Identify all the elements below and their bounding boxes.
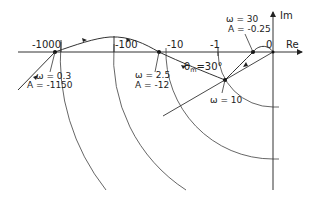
amplitude-minus-12-label: A = -12 [135,80,169,90]
real-axis-ticks [61,36,218,56]
tick-label-minus-1000: -1000 [32,39,61,50]
arrow-icon [243,62,248,67]
tick-label-minus-1: -1 [210,39,220,50]
real-axis-label: Re [286,39,299,50]
tick-label-minus-10: -10 [167,39,183,50]
imag-axis-label: Im [280,10,293,21]
omega-10-label: ω = 10 [210,95,243,105]
svg-text:θm=30°: θm=30° [184,61,223,74]
phase-margin-value: =30° [196,61,222,72]
point-origin [272,51,275,54]
phase-margin-label: θm=30° [184,61,223,74]
amplitude-minus-1150-label: A = -1150 [27,80,73,90]
arc-minus-1000 [60,42,106,190]
omega-2.5-label: ω = 2.5 [135,70,170,80]
amplitude-minus-0.25-label: A = -0.25 [228,24,271,34]
tick-label-minus-100: -100 [115,39,138,50]
omega-30-label: ω = 30 [226,14,259,24]
nyquist-diagram: Re Im -1000 -100 -10 -1 0 ω = 0.3 A = -1… [0,0,311,202]
tick-label-zero: 0 [266,39,272,50]
arc-minus-100 [114,44,186,190]
